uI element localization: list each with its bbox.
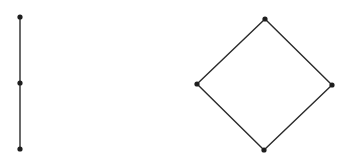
edge-d_top-d_right <box>265 19 332 85</box>
node-d_left <box>194 81 199 86</box>
edge-d_right-d_bottom <box>264 85 332 150</box>
node-c2 <box>17 80 22 85</box>
node-d_bottom <box>261 147 266 152</box>
node-d_right <box>329 82 334 87</box>
chain-graph <box>17 14 22 151</box>
node-c1 <box>17 14 22 19</box>
diagram-canvas <box>0 0 345 163</box>
edge-d_left-d_bottom <box>197 84 264 150</box>
node-d_top <box>262 16 267 21</box>
graphs-layer <box>17 14 334 152</box>
diamond-graph <box>194 16 334 152</box>
node-c3 <box>17 146 22 151</box>
edge-d_top-d_left <box>197 19 265 84</box>
